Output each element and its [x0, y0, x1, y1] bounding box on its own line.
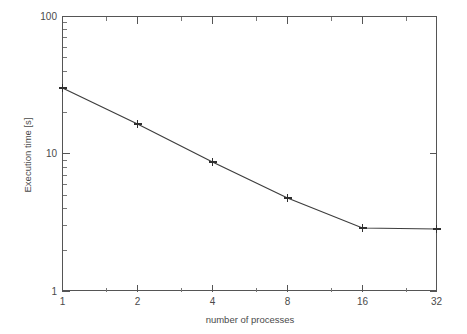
x-axis-major-ticks [63, 17, 437, 292]
data-point-8 [284, 194, 292, 202]
x-axis-title: number of processes [206, 314, 295, 325]
y-tick-label-1: 1 [51, 286, 57, 297]
x-axis-minor-ticks [106, 17, 406, 292]
log-log-line-chart: 1 10 100 1 2 4 8 16 32 number of process… [0, 0, 467, 334]
plot-frame [63, 17, 437, 291]
y-axis-major-ticks [63, 17, 437, 292]
x-tick-label-8: 8 [285, 296, 291, 307]
y-axis-minor-ticks [63, 23, 67, 250]
x-tick-label-16: 16 [357, 296, 369, 307]
data-point-markers [59, 84, 441, 233]
x-tick-label-4: 4 [210, 296, 216, 307]
series-line-execution-time [63, 88, 437, 229]
y-tick-label-10: 10 [46, 148, 58, 159]
y-tick-label-100: 100 [40, 11, 57, 22]
data-point-16 [359, 224, 367, 232]
y-axis-title: Execution time [s] [22, 118, 33, 193]
data-point-1 [59, 84, 67, 92]
data-point-32 [433, 225, 441, 233]
chart-figure: 1 10 100 1 2 4 8 16 32 number of process… [0, 0, 467, 334]
data-point-2 [134, 120, 142, 128]
x-tick-label-1: 1 [60, 296, 66, 307]
data-point-4 [209, 158, 217, 166]
x-tick-label-32: 32 [431, 296, 443, 307]
x-tick-label-2: 2 [135, 296, 141, 307]
